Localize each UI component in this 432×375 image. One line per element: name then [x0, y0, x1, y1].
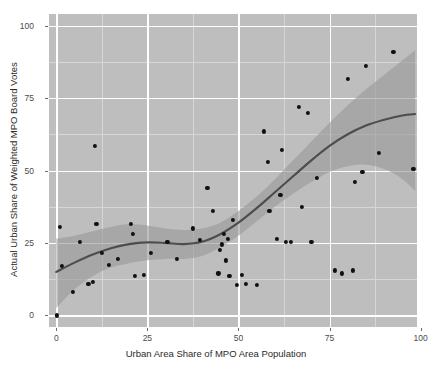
x-axis-tick-label: 75: [325, 333, 334, 343]
data-point: [165, 239, 169, 243]
data-point: [377, 151, 381, 155]
data-point: [262, 129, 266, 133]
x-axis-tick-label: 100: [414, 333, 428, 343]
data-point: [71, 290, 75, 294]
data-point: [198, 238, 202, 242]
x-axis-tick-mark: [147, 328, 148, 331]
data-point: [216, 271, 220, 275]
data-point: [235, 283, 239, 287]
y-axis-tick-mark: [45, 315, 48, 316]
data-point: [284, 239, 288, 243]
data-point: [255, 283, 259, 287]
data-point: [244, 281, 248, 285]
data-point: [131, 232, 135, 236]
data-point: [306, 110, 310, 114]
data-point: [107, 263, 111, 267]
data-point: [289, 239, 293, 243]
data-point: [315, 176, 319, 180]
data-point: [60, 264, 64, 268]
x-axis-tick-mark: [238, 328, 239, 331]
y-axis-tick-mark: [45, 243, 48, 244]
data-point: [353, 180, 357, 184]
data-point: [278, 193, 282, 197]
y-axis-tick-mark: [45, 98, 48, 99]
data-point: [191, 226, 195, 230]
data-point: [211, 209, 215, 213]
data-point: [78, 239, 82, 243]
data-point: [296, 105, 300, 109]
data-point: [351, 268, 355, 272]
data-point: [174, 257, 178, 261]
data-point: [364, 64, 368, 68]
data-point: [58, 225, 62, 229]
x-axis-tick-label: 25: [143, 333, 152, 343]
y-axis-tick-mark: [45, 171, 48, 172]
data-point: [360, 170, 364, 174]
data-point: [280, 148, 284, 152]
data-point: [275, 237, 279, 241]
data-point: [309, 239, 313, 243]
data-point: [240, 273, 244, 277]
data-point: [91, 280, 95, 284]
data-point: [411, 167, 415, 171]
data-point: [225, 237, 229, 241]
data-point: [220, 242, 224, 246]
data-point: [346, 77, 350, 81]
x-axis-tick-label: 0: [54, 333, 59, 343]
data-point: [92, 144, 96, 148]
data-points-layer: [49, 14, 417, 327]
data-point: [218, 248, 222, 252]
data-point: [205, 186, 209, 190]
x-axis-tick-mark: [56, 328, 57, 331]
x-axis-tick-mark: [330, 328, 331, 331]
data-point: [333, 268, 337, 272]
data-point: [149, 251, 153, 255]
x-axis-tick-label: 50: [234, 333, 243, 343]
data-point: [142, 273, 146, 277]
data-point: [267, 209, 271, 213]
data-point: [94, 222, 98, 226]
data-point: [100, 251, 104, 255]
data-point: [222, 232, 226, 236]
data-point: [391, 50, 395, 54]
plot-panel: [49, 14, 417, 327]
data-point: [266, 160, 270, 164]
x-axis-tick-mark: [421, 328, 422, 331]
data-point: [224, 258, 228, 262]
data-point: [340, 271, 344, 275]
data-point: [231, 218, 235, 222]
data-point: [133, 274, 137, 278]
data-point: [227, 274, 231, 278]
y-axis-label: Actual Urban Share of Weighted MPO Board…: [8, 20, 19, 320]
scatter-plot-figure: 0255075100 0255075100 Urban Area Share o…: [0, 0, 432, 375]
data-point: [129, 222, 133, 226]
y-axis-tick-mark: [45, 26, 48, 27]
x-axis-label: Urban Area Share of MPO Area Population: [0, 348, 432, 359]
data-point: [300, 205, 304, 209]
data-point: [116, 257, 120, 261]
data-point: [55, 313, 59, 317]
